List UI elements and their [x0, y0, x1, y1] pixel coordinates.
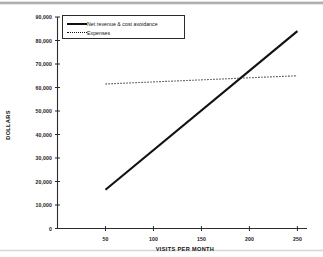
series-line-net-revenue-cost-avoidance: [105, 31, 297, 190]
y-axis-tick-label: 0: [18, 226, 52, 232]
legend-label-expenses: Expenses: [87, 30, 110, 36]
y-axis-tick-label: 10,000: [18, 202, 52, 208]
y-axis-title: DOLLARS: [5, 110, 11, 140]
x-axis-title: VISITS PER MONTH: [156, 246, 214, 252]
chart-legend: Net revenue & cost avoidance Expenses: [62, 15, 185, 39]
y-axis-tick-label: 40,000: [18, 132, 52, 138]
x-axis-tick-label: 50: [102, 236, 108, 242]
x-axis-tick-label: 200: [245, 236, 254, 242]
series-line-expenses: [105, 76, 297, 84]
y-axis-tick-label: 30,000: [18, 155, 52, 161]
y-axis-tick-label: 50,000: [18, 108, 52, 114]
y-axis-tick-label: 90,000: [18, 14, 52, 20]
legend-item-net-revenue: Net revenue & cost avoidance: [66, 19, 181, 28]
solid-line-swatch-icon: [66, 20, 87, 28]
data-series-layer: [105, 31, 297, 190]
y-axis-tick-label: 80,000: [18, 38, 52, 44]
y-axis-tick-label: 20,000: [18, 179, 52, 185]
y-axis-tick-label: 60,000: [18, 85, 52, 91]
y-axis-tick-label: 70,000: [18, 61, 52, 67]
legend-item-expenses: Expenses: [66, 28, 181, 37]
legend-label-net-revenue: Net revenue & cost avoidance: [87, 21, 158, 27]
x-axis-tick-label: 250: [293, 236, 302, 242]
x-axis-tick-label: 100: [149, 236, 158, 242]
line-chart-figure: 010,00020,00030,00040,00050,00060,00070,…: [0, 0, 323, 257]
dotted-line-swatch-icon: [66, 29, 87, 37]
x-axis-tick-label: 150: [197, 236, 206, 242]
